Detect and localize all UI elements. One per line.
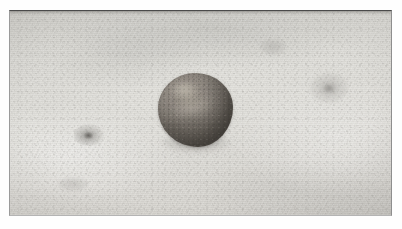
photograph-top-shadow-band: [10, 11, 391, 15]
clay-ball-body: [158, 73, 233, 147]
photograph-image: [10, 11, 391, 215]
clay-ball-rim: [158, 73, 233, 147]
clay-ball: [158, 73, 234, 149]
screenshot-root: A small rounded grey-brown clay ball res…: [0, 0, 402, 229]
photograph-frame: [9, 10, 392, 216]
